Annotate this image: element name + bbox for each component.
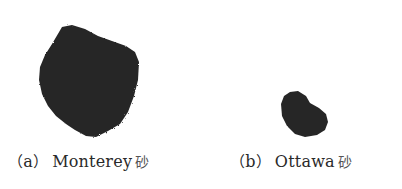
caption-close-paren: ） [33,153,48,171]
caption-b: （b）Ottawa砂 [230,150,352,171]
panel-b-ottawa: （b）Ottawa砂 [201,0,402,189]
caption-close-paren: ） [256,153,271,171]
caption-a: （a）Monterey砂 [8,150,149,171]
caption-open-paren: （ [8,153,23,171]
caption-open-paren: （ [230,153,245,171]
caption-sand-suffix: 砂 [338,154,352,170]
caption-label: b [245,152,255,171]
caption-sand-suffix: 砂 [135,154,149,170]
caption-label: a [23,152,33,171]
caption-sand-name: Monterey [52,152,132,171]
panel-a-monterey: （a）Monterey砂 [0,0,201,189]
caption-sand-name: Ottawa [275,152,335,171]
